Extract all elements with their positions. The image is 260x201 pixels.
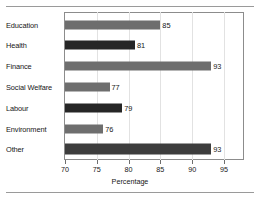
bar-finance (65, 62, 211, 71)
category-label-environment: Environment (6, 124, 46, 133)
bar-chart: Education85Health81Finance93Social Welfa… (0, 0, 260, 201)
x-tick-label-80: 80 (125, 165, 133, 174)
bar-health (65, 41, 135, 50)
category-label-health: Health (6, 41, 27, 50)
value-label-social-welfare: 77 (112, 82, 120, 91)
x-tick-label-70: 70 (61, 165, 69, 174)
bar-environment (65, 124, 103, 133)
category-label-labour: Labour (6, 103, 28, 112)
x-axis-title: Percentage (0, 177, 260, 186)
bar-row: Finance93 (0, 56, 260, 77)
category-label-other: Other (6, 145, 24, 154)
x-tick-label-95: 95 (220, 165, 228, 174)
category-label-social-welfare: Social Welfare (6, 82, 52, 91)
bar-row: Social Welfare77 (0, 76, 260, 97)
x-tick-85 (160, 160, 161, 164)
value-label-education: 85 (162, 20, 170, 29)
value-label-environment: 76 (105, 124, 113, 133)
bar-row: Health81 (0, 35, 260, 56)
x-tick-label-90: 90 (188, 165, 196, 174)
category-label-education: Education (6, 20, 38, 29)
x-tick-95 (224, 160, 225, 164)
bar-labour (65, 103, 122, 112)
bar-social-welfare (65, 82, 110, 91)
value-label-finance: 93 (213, 62, 221, 71)
bar-row: Labour79 (0, 97, 260, 118)
bar-row: Environment76 (0, 118, 260, 139)
category-label-finance: Finance (6, 62, 32, 71)
x-tick-90 (192, 160, 193, 164)
x-tick-70 (65, 160, 66, 164)
bar-education (65, 20, 160, 29)
value-label-health: 81 (137, 41, 145, 50)
bar-row: Education85 (0, 14, 260, 35)
x-tick-label-85: 85 (156, 165, 164, 174)
bar-other (65, 144, 211, 155)
x-tick-80 (129, 160, 130, 164)
x-tick-75 (97, 160, 98, 164)
bar-row: Other93 (0, 139, 260, 160)
x-tick-label-75: 75 (93, 165, 101, 174)
value-label-other: 93 (213, 145, 221, 154)
value-label-labour: 79 (124, 103, 132, 112)
